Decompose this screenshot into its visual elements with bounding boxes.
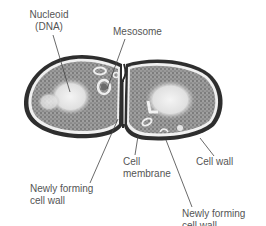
label-newly-forming-left-line2: cell wall [30, 195, 93, 207]
label-cell-membrane-line1: Cell [123, 156, 171, 168]
label-nucleoid-line2: (DNA) [20, 21, 78, 33]
label-nucleoid: Nucleoid (DNA) [20, 9, 78, 33]
label-newly-forming-right-line1: Newly forming [182, 208, 245, 220]
label-newly-forming-right: Newly forming cell wall [182, 208, 245, 226]
label-cell-membrane-line2: membrane [123, 168, 171, 180]
bacterial-cell-diagram: Nucleoid (DNA) Mesosome Cell membrane Ce… [0, 0, 266, 226]
label-nucleoid-line1: Nucleoid [20, 9, 78, 21]
leader-cell-membrane [135, 136, 138, 155]
left-daughter-cell [24, 55, 122, 138]
label-mesosome-line1: Mesosome [113, 26, 162, 38]
label-newly-forming-left-line1: Newly forming [30, 183, 93, 195]
label-cell-wall-line1: Cell wall [196, 156, 233, 168]
label-cell-wall: Cell wall [196, 156, 233, 168]
right-daughter-cell [124, 59, 223, 140]
label-newly-forming-left: Newly forming cell wall [30, 183, 93, 207]
leader-cell-wall [200, 138, 214, 156]
label-newly-forming-right-line2: cell wall [182, 220, 245, 226]
label-cell-membrane: Cell membrane [123, 156, 171, 180]
label-mesosome: Mesosome [113, 26, 162, 38]
